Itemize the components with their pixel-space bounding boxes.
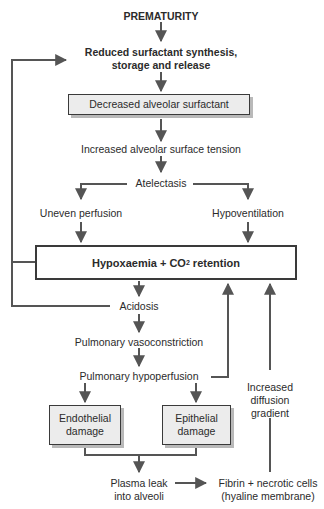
node-hypoperfusion: Pulmonary hypoperfusion [74, 370, 204, 383]
node-acidosis: Acidosis [109, 300, 169, 313]
node-plasma-line1: Plasma leak [104, 477, 174, 490]
node-decreased-surfactant: Decreased alveolar surfactant [68, 94, 250, 115]
node-prematurity: PREMATURITY [111, 10, 211, 23]
node-hypoxaemia-suffix: retention [190, 257, 240, 269]
node-epithelial-damage: Epithelial damage [162, 405, 231, 445]
node-surface-tension: Increased alveolar surface tension [61, 143, 261, 156]
node-fibrin-line2: (hyaline membrane) [212, 490, 324, 503]
node-endothelial-line1: Endothelial [59, 412, 111, 425]
node-epithelial-line1: Epithelial [175, 412, 218, 425]
node-endothelial-damage: Endothelial damage [49, 405, 121, 445]
node-fibrin: Fibrin + necrotic cells (hyaline membran… [212, 477, 324, 503]
node-reduced-synthesis-line2: storage and release [61, 59, 261, 72]
node-diffusion-line2: diffusion [240, 394, 300, 407]
node-diffusion-gradient: Increased diffusion gradient [240, 381, 300, 420]
node-reduced-synthesis: Reduced surfactant synthesis, storage an… [61, 46, 261, 72]
node-reduced-synthesis-line1: Reduced surfactant synthesis, [61, 46, 261, 59]
node-uneven-perfusion: Uneven perfusion [36, 207, 126, 220]
node-decreased-surfactant-label: Decreased alveolar surfactant [89, 98, 229, 111]
node-epithelial-line2: damage [175, 425, 218, 438]
node-hypoxaemia: Hypoxaemia + CO2 retention [35, 245, 297, 280]
node-diffusion-line1: Increased [240, 381, 300, 394]
node-atelectasis: Atelectasis [121, 177, 201, 190]
node-endothelial-line2: damage [59, 425, 111, 438]
node-fibrin-line1: Fibrin + necrotic cells [212, 477, 324, 490]
node-plasma-leak: Plasma leak into alveoli [104, 477, 174, 503]
node-hypoventilation: Hypoventilation [208, 207, 288, 220]
node-plasma-line2: into alveoli [104, 490, 174, 503]
node-vasoconstriction: Pulmonary vasoconstriction [69, 336, 209, 349]
node-hypoxaemia-prefix: Hypoxaemia + CO [92, 257, 186, 269]
node-diffusion-line3: gradient [240, 407, 300, 420]
